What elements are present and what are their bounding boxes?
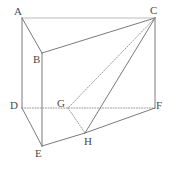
edge-CH [85,18,155,133]
vertex-label-h: H [84,136,92,147]
vertex-label-e: E [35,148,42,159]
edge-DE [22,108,42,146]
edge-GH [68,108,85,133]
vertex-label-a: A [14,6,22,17]
vertex-label-d: D [10,100,18,111]
vertex-label-f: F [156,100,162,111]
edge-EH [42,133,85,146]
vertex-label-g: G [57,98,65,109]
edge-AB [22,18,42,53]
edge-HF [85,108,155,133]
geometry-figure: ABCDEFGH [0,0,171,169]
edge-layer [22,18,155,146]
vertex-label-c: C [150,5,157,16]
vertex-label-b: B [33,54,40,65]
